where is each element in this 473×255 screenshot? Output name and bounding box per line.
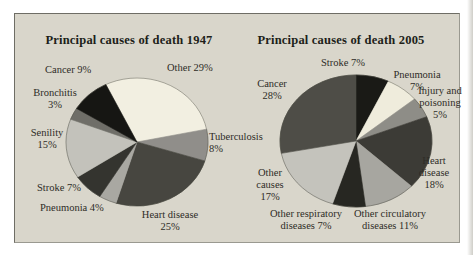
- slice-label-heart-disease-2005: Heartdisease18%: [407, 155, 461, 191]
- slice-label-injury-and-poisoning-2005: Injury andpoisoning5%: [413, 85, 467, 121]
- chart-title-1947: Principal causes of death 1947: [24, 33, 234, 48]
- slice-label-other-circulatory-diseases-2005: Other circulatorydiseases 11%: [346, 208, 434, 232]
- slice-label-bronchitis-1947: Bronchitis3%: [25, 87, 85, 111]
- slice-label-cancer-1947: Cancer 9%: [45, 64, 111, 76]
- chart-title-2005: Principal causes of death 2005: [236, 33, 446, 48]
- slice-label-cancer-2005: Cancer28%: [245, 78, 299, 102]
- slice-label-tuberculosis-1947: Tuberculosis8%: [209, 131, 281, 155]
- slice-label-pneumonia-1947: Pneumonia 4%: [40, 202, 132, 214]
- slice-label-stroke-2005: Stroke 7%: [321, 57, 387, 69]
- slice-label-other-respiratory-diseases-2005: Other respiratorydiseases 7%: [262, 208, 350, 232]
- page-edge-shadow: [467, 0, 473, 255]
- figure-panel: Principal causes of death 1947 Principal…: [14, 13, 460, 243]
- slice-label-stroke-1947: Stroke 7%: [37, 182, 109, 194]
- slice-label-other-1947: Other 29%: [167, 62, 239, 74]
- slice-label-senility-1947: Senility15%: [19, 127, 75, 151]
- slice-label-other-causes-2005: Othercauses17%: [243, 167, 297, 203]
- slice-label-heart-disease-1947: Heart disease25%: [125, 209, 215, 233]
